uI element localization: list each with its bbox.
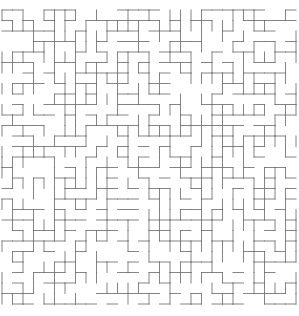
- maze-grid: [0, 0, 299, 316]
- maze-screenshot: [0, 0, 299, 316]
- maze-walls: [2, 10, 296, 304]
